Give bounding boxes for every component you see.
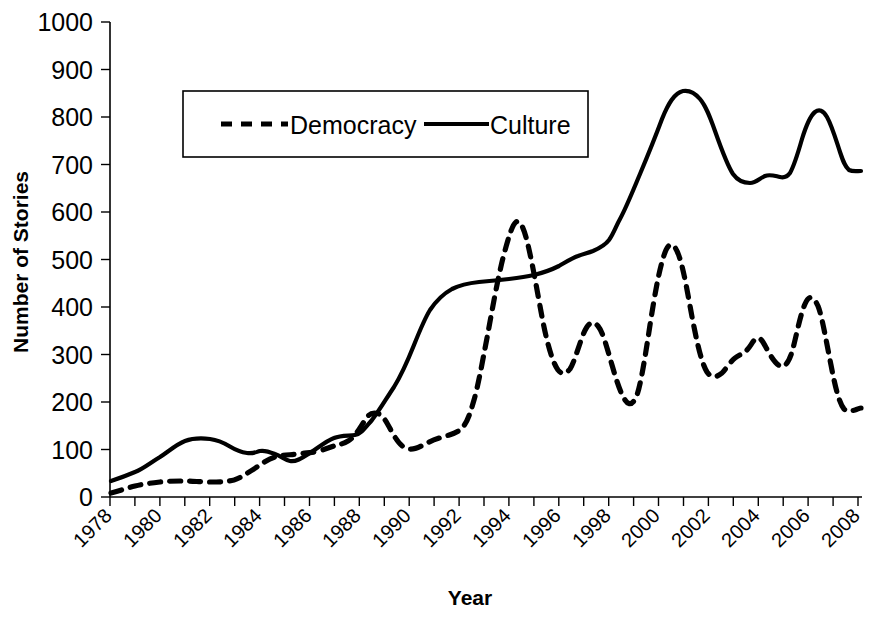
- y-tick-label: 1000: [37, 8, 93, 36]
- x-tick-label: 2006: [767, 504, 814, 551]
- y-axis-tick-labels: 1000 900 800 700 600 500 400 300 200 100…: [37, 8, 93, 511]
- x-tick-label: 2002: [667, 504, 714, 551]
- y-tick-label: 900: [51, 56, 93, 84]
- x-axis-tick-labels: 1978 1980 1982 1984 1986 1988 1990 1992 …: [69, 504, 864, 551]
- x-axis-ticks: [110, 497, 858, 506]
- y-tick-label: 300: [51, 341, 93, 369]
- x-axis-title: Year: [448, 586, 492, 609]
- y-tick-label: 0: [79, 483, 93, 511]
- y-tick-label: 800: [51, 103, 93, 131]
- legend-label-culture: Culture: [490, 111, 571, 139]
- y-axis-ticks: [101, 22, 110, 497]
- x-tick-label: 1990: [368, 504, 415, 551]
- x-tick-label: 1982: [169, 504, 216, 551]
- x-tick-label: 1984: [219, 504, 266, 551]
- x-tick-label: 1998: [568, 504, 615, 551]
- x-tick-label: 1996: [518, 504, 565, 551]
- y-tick-label: 200: [51, 388, 93, 416]
- chart-legend: Democracy Culture: [183, 91, 588, 157]
- x-tick-label: 1980: [119, 504, 166, 551]
- series-line-democracy: [111, 221, 861, 493]
- x-tick-label: 2000: [617, 504, 664, 551]
- chart-canvas: 1000 900 800 700 600 500 400 300 200 100…: [0, 0, 886, 631]
- legend-label-democracy: Democracy: [290, 111, 417, 139]
- y-axis-title: Number of Stories: [9, 171, 32, 353]
- y-tick-label: 400: [51, 293, 93, 321]
- x-tick-label: 1992: [418, 504, 465, 551]
- x-tick-label: 1988: [318, 504, 365, 551]
- line-chart: 1000 900 800 700 600 500 400 300 200 100…: [0, 0, 886, 631]
- x-tick-label: 2008: [817, 504, 864, 551]
- y-tick-label: 500: [51, 246, 93, 274]
- x-tick-label: 2004: [717, 504, 764, 551]
- x-tick-label: 1994: [468, 504, 515, 551]
- y-tick-label: 600: [51, 198, 93, 226]
- y-tick-label: 100: [51, 436, 93, 464]
- x-tick-label: 1986: [269, 504, 316, 551]
- x-tick-label: 1978: [69, 504, 116, 551]
- y-tick-label: 700: [51, 151, 93, 179]
